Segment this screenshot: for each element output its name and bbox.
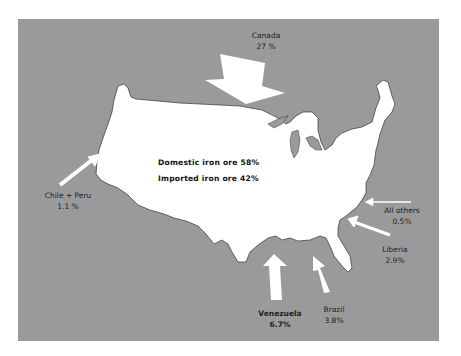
canada-arrow — [205, 54, 285, 104]
source-value: 1.1 % — [33, 201, 103, 212]
source-name: Venezuela — [250, 308, 310, 319]
source-value: 2.9% — [370, 255, 420, 266]
imported-share: Imported iron ore 42% — [158, 171, 259, 187]
chile-peru-arrow — [60, 154, 100, 185]
brazil-arrow — [313, 256, 330, 293]
domestic-share: Domestic iron ore 58% — [158, 155, 259, 171]
summary-box: Domestic iron ore 58% Imported iron ore … — [158, 155, 259, 187]
source-value: 6.7% — [250, 319, 310, 330]
label-brazil: Brazil 3.8% — [312, 304, 356, 326]
label-all-others: All others 0.5% — [372, 205, 432, 227]
source-name: Chile + Peru — [33, 190, 103, 201]
source-name: Liberia — [370, 244, 420, 255]
source-value: 27 % — [236, 41, 296, 52]
source-name: Canada — [236, 30, 296, 41]
label-chile-peru: Chile + Peru 1.1 % — [33, 190, 103, 212]
source-value: 3.8% — [312, 315, 356, 326]
source-name: All others — [372, 205, 432, 216]
label-canada: Canada 27 % — [236, 30, 296, 52]
label-liberia: Liberia 2.9% — [370, 244, 420, 266]
label-venezuela: Venezuela 6.7% — [250, 308, 310, 330]
source-value: 0.5% — [372, 216, 432, 227]
venezuela-arrow — [263, 254, 287, 300]
source-name: Brazil — [312, 304, 356, 315]
